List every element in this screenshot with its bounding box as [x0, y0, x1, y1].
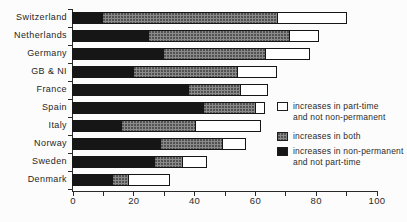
bar-segment-white — [255, 103, 262, 113]
x-axis-tick — [164, 192, 165, 196]
bar-segment-black — [73, 13, 103, 23]
legend-line: increases in non-permanent — [293, 146, 404, 156]
y-axis-tick — [68, 99, 72, 100]
x-tick-label: 80 — [301, 195, 331, 206]
y-axis-tick — [68, 189, 72, 190]
bar-segment-black — [73, 175, 113, 185]
bar-row — [72, 84, 268, 96]
legend-line: and not part-time — [293, 157, 361, 167]
bar-segment-gray — [189, 85, 241, 95]
y-axis-tick — [68, 117, 72, 118]
stacked-bar-chart: SwitzerlandNetherlandsGermanyGB & NIFran… — [0, 0, 407, 222]
y-axis-tick — [68, 171, 72, 172]
bar-row — [72, 66, 277, 78]
legend-item-both: increases in both — [277, 131, 361, 142]
category-label: Spain — [0, 102, 67, 113]
legend-line: increases in part-time — [293, 101, 379, 111]
bar-row — [72, 12, 347, 24]
bar-segment-white — [237, 67, 275, 77]
bar-segment-white — [277, 13, 345, 23]
category-label: Sweden — [0, 156, 67, 167]
legend-item-part-time-only: increases in part-time and not non-perma… — [277, 101, 386, 122]
x-tick-label: 40 — [180, 195, 210, 206]
x-tick-label: 0 — [58, 195, 88, 206]
x-axis-tick — [103, 192, 104, 196]
bar-segment-gray — [113, 175, 128, 185]
x-tick-label: 100 — [362, 195, 392, 206]
bar-segment-black — [73, 85, 189, 95]
category-label: Netherlands — [0, 30, 67, 41]
x-axis-tick — [346, 192, 347, 196]
bar-segment-black — [73, 31, 149, 41]
y-axis-tick — [68, 27, 72, 28]
bar-segment-gray — [134, 67, 237, 77]
y-axis-tick — [68, 45, 72, 46]
y-axis-tick — [68, 153, 72, 154]
bar-segment-black — [73, 49, 164, 59]
category-label: Germany — [0, 48, 67, 59]
bar-row — [72, 48, 310, 60]
bar-segment-gray — [103, 13, 276, 23]
category-label: Switzerland — [0, 12, 67, 23]
legend-label: increases in part-time and not non-perma… — [293, 101, 386, 122]
y-axis-tick — [68, 81, 72, 82]
bar-row — [72, 156, 207, 168]
category-label: France — [0, 84, 67, 95]
bar-row — [72, 120, 261, 132]
bar-segment-black — [73, 121, 122, 131]
legend-swatch-gray-icon — [277, 132, 288, 141]
bar-segment-gray — [164, 49, 264, 59]
bar-segment-white — [182, 157, 204, 167]
x-axis-tick — [225, 192, 226, 196]
y-axis-tick — [68, 9, 72, 10]
bar-segment-white — [289, 31, 317, 41]
bar-segment-white — [195, 121, 260, 131]
bar-segment-gray — [161, 139, 222, 149]
legend-item-non-permanent-only: increases in non-permanent and not part-… — [277, 146, 404, 167]
category-label: GB & NI — [0, 66, 67, 77]
bar-row — [72, 138, 246, 150]
legend-swatch-black-icon — [277, 147, 288, 156]
bar-segment-white — [265, 49, 309, 59]
bar-segment-black — [73, 103, 204, 113]
category-label: Norway — [0, 138, 67, 149]
x-tick-label: 60 — [240, 195, 270, 206]
y-axis-tick — [68, 63, 72, 64]
legend-label: increases in both — [293, 131, 361, 142]
bar-row — [72, 30, 319, 42]
bar-segment-white — [222, 139, 244, 149]
bar-segment-white — [240, 85, 265, 95]
x-tick-label: 20 — [119, 195, 149, 206]
category-label: Italy — [0, 120, 67, 131]
bar-segment-black — [73, 157, 155, 167]
y-axis-tick — [68, 135, 72, 136]
bar-segment-gray — [122, 121, 195, 131]
legend-swatch-white-icon — [277, 102, 288, 111]
bar-row — [72, 102, 265, 114]
x-axis-tick — [285, 192, 286, 196]
bar-segment-white — [128, 175, 169, 185]
bar-segment-gray — [149, 31, 289, 41]
bar-segment-gray — [155, 157, 182, 167]
category-label: Denmark — [0, 174, 67, 185]
bar-segment-black — [73, 139, 161, 149]
legend-line: increases in both — [293, 131, 361, 141]
legend-label: increases in non-permanent and not part-… — [293, 146, 404, 167]
bar-row — [72, 174, 170, 186]
bar-segment-gray — [204, 103, 256, 113]
bar-segment-black — [73, 67, 134, 77]
legend-line: and not non-permanent — [293, 112, 386, 122]
